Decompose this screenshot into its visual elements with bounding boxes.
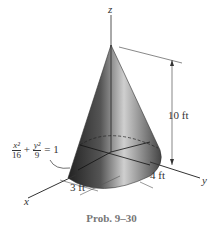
x-axis-label: x [24, 196, 29, 207]
cone-drawing [0, 0, 223, 230]
height-label: 10 ft [168, 110, 188, 121]
y-axis-label: y [202, 175, 207, 186]
semi-axis-3ft-label: 3 ft [70, 182, 85, 193]
cone-figure: z y x 10 ft 4 ft 3 ft x²16 + y²9 = 1 Pro… [0, 0, 223, 230]
ellipse-equation: x²16 + y²9 = 1 [12, 141, 59, 160]
z-axis-label: z [108, 4, 112, 15]
figure-caption: Prob. 9–30 [0, 212, 223, 224]
semi-axis-4ft-label: 4 ft [150, 170, 165, 181]
